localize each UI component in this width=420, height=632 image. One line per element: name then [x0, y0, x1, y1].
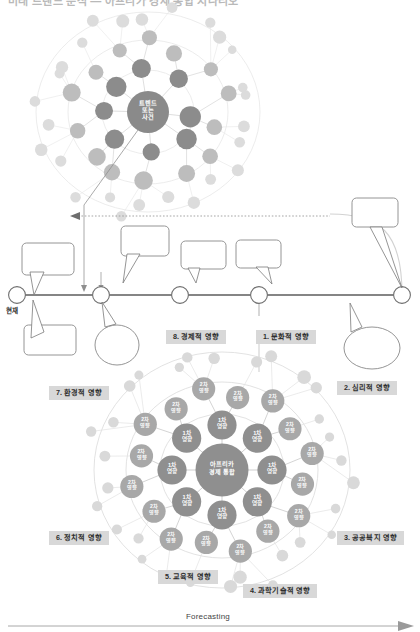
forecasting-arrowhead: [398, 621, 414, 631]
forecasting-axis: [0, 0, 420, 632]
forecasting-label: Forecasting: [186, 612, 230, 621]
diagram-canvas: 미래 트렌드 분석 — 아프리카 경제 통합 시나리오 트렌드또는사건 현재 8…: [0, 0, 420, 632]
